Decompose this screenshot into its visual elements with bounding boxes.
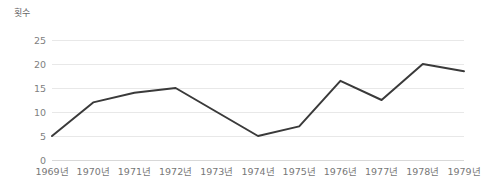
- plot-area: [52, 40, 464, 160]
- gridline: [52, 160, 464, 161]
- line-chart: 횟수 0510152025 1969년1970년1971년1972년1973년1…: [0, 0, 484, 189]
- x-tick-label: 1977년: [365, 164, 398, 178]
- x-tick-label: 1971년: [118, 164, 151, 178]
- y-tick-label: 15: [34, 83, 46, 94]
- x-tick-label: 1969년: [35, 164, 68, 178]
- y-tick-label: 10: [34, 107, 46, 118]
- y-axis-tick-labels: 0510152025: [14, 40, 46, 160]
- x-tick-label: 1975년: [283, 164, 316, 178]
- x-tick-label: 1974년: [241, 164, 274, 178]
- x-tick-label: 1970년: [77, 164, 110, 178]
- y-axis-label: 횟수: [14, 6, 30, 19]
- y-tick-label: 5: [40, 131, 46, 142]
- data-line-series: [52, 40, 464, 160]
- x-tick-label: 1973년: [200, 164, 233, 178]
- x-tick-label: 1979년: [447, 164, 480, 178]
- x-tick-label: 1976년: [324, 164, 357, 178]
- y-tick-label: 20: [34, 59, 46, 70]
- y-tick-label: 25: [34, 35, 46, 46]
- x-tick-label: 1978년: [406, 164, 439, 178]
- x-axis-tick-labels: 1969년1970년1971년1972년1973년1974년1975년1976년…: [52, 164, 464, 184]
- x-tick-label: 1972년: [159, 164, 192, 178]
